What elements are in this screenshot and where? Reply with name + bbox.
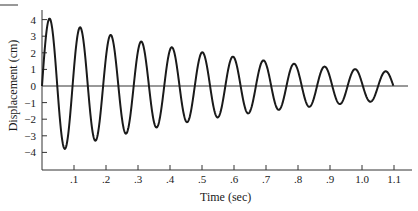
svg-text:.9: .9 [326,173,335,185]
x-ticks: .1.2.3.4.5.6.7.8.91.01.1 [70,165,401,185]
svg-text:.7: .7 [262,173,271,185]
svg-text:−1: −1 [24,97,36,109]
x-axis-label: Time (sec) [200,190,251,205]
svg-text:0: 0 [31,80,37,92]
svg-text:.6: .6 [230,173,239,185]
svg-text:.2: .2 [102,173,110,185]
svg-text:1.1: 1.1 [387,173,401,185]
svg-text:1.0: 1.0 [355,173,369,185]
y-axis-label: Displacement (cm) [6,31,21,141]
svg-text:2: 2 [31,47,37,59]
svg-text:.8: .8 [294,173,303,185]
svg-text:4: 4 [31,14,37,26]
svg-text:.4: .4 [166,173,175,185]
displacement-curve [42,19,393,149]
svg-text:.3: .3 [134,173,143,185]
svg-text:−2: −2 [24,113,36,125]
svg-text:.5: .5 [198,173,207,185]
displacement-chart: 43210−1−2−3−4 .1.2.3.4.5.6.7.8.91.01.1 [0,0,418,211]
svg-text:−3: −3 [24,130,36,142]
svg-text:1: 1 [31,63,37,75]
svg-text:−4: −4 [24,146,36,158]
svg-text:.1: .1 [70,173,78,185]
svg-text:3: 3 [31,30,37,42]
